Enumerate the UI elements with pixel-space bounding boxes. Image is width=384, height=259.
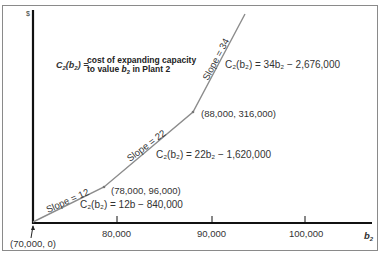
tick-label-90000: 90,000 bbox=[197, 228, 226, 239]
tick-label-100000: 100,000 bbox=[289, 228, 323, 239]
breakpoint-2 bbox=[192, 111, 195, 114]
definition-lhs: C2(b2) = bbox=[56, 60, 89, 71]
equation-segment-3: C₂(b₂) = 34b₂ − 2,676,000 bbox=[225, 59, 340, 70]
equation-segment-2: C₂(b₂) = 22b₂ − 1,620,000 bbox=[156, 149, 271, 160]
point-label-78000: (78,000, 96,000) bbox=[111, 185, 181, 196]
breakpoint-1 bbox=[103, 186, 106, 189]
tick-label-80000: 80,000 bbox=[102, 228, 131, 239]
cost-chart: $ 80,000 90,000 100,000 b2 (70,000, 0) (… bbox=[0, 0, 384, 259]
x-axis-label: b2 bbox=[364, 230, 374, 242]
equation-segment-1: C₂(b₂) = 12b − 840,000 bbox=[80, 199, 183, 210]
origin-arrowhead-icon bbox=[31, 225, 35, 230]
y-axis-label: $ bbox=[26, 10, 30, 17]
point-label-origin: (70,000, 0) bbox=[10, 238, 56, 249]
point-label-88000: (88,000, 316,000) bbox=[201, 108, 276, 119]
definition-line-2: to value b2 in Plant 2 bbox=[87, 64, 170, 75]
